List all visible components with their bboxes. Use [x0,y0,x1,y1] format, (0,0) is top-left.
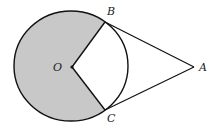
label-B: B [106,5,115,18]
label-A: A [198,61,207,74]
geometry-diagram: O B C A [0,0,217,133]
label-C: C [107,112,116,125]
label-O: O [53,61,62,74]
center-point-O [70,65,73,68]
tangent-CA [105,67,194,110]
tangent-BA [105,22,194,67]
